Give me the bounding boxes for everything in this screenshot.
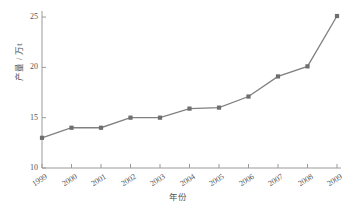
line-chart: 产量 / 万t 年份 10152025 19992000200120022003… [0,0,356,213]
data-point-marker [69,126,73,130]
data-point-marker [158,116,162,120]
data-point-marker [335,14,339,18]
tick-marks [42,17,337,168]
plot-area [0,0,356,213]
data-point-marker [99,126,103,130]
data-series [40,14,339,140]
data-point-marker [276,74,280,78]
data-point-marker [305,64,309,68]
series-line [42,16,337,138]
data-point-marker [128,116,132,120]
data-point-marker [217,106,221,110]
axes [42,11,341,168]
data-point-marker [187,107,191,111]
data-point-marker [40,136,44,140]
data-point-marker [246,94,250,98]
